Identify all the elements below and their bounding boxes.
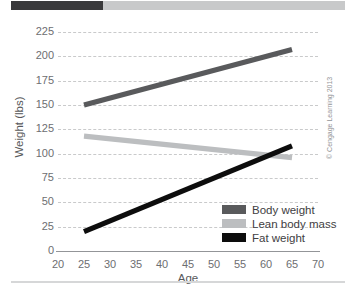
legend-label: Lean body mass [252, 218, 336, 230]
series-line [84, 136, 292, 157]
bottom-rule [11, 281, 345, 283]
figure-container: 0255075100125150175200225 20253035404550… [0, 11, 361, 273]
legend-label: Fat weight [252, 232, 305, 244]
legend-swatch [222, 219, 246, 228]
legend-item: Fat weight [222, 231, 336, 244]
legend-swatch [222, 205, 246, 214]
series-line [84, 50, 292, 105]
legend-swatch [222, 233, 246, 242]
top-decorative-bar [0, 0, 361, 11]
copyright-credit: © Cengage Learning 2013 [326, 49, 334, 159]
topbar-dark-segment [11, 1, 103, 10]
legend-label: Body weight [252, 204, 315, 216]
legend-item: Body weight [222, 203, 336, 216]
chart-legend: Body weightLean body massFat weight [222, 203, 336, 245]
legend-item: Lean body mass [222, 217, 336, 230]
